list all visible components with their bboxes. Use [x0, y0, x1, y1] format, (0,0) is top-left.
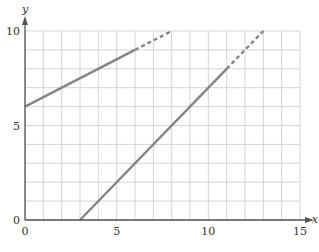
y-tick-label: 10 [6, 25, 20, 38]
x-tick-label: 0 [22, 225, 29, 238]
tick-labels: 0510150510xy [6, 3, 319, 238]
axes [22, 16, 314, 223]
x-tick-label: 10 [201, 225, 215, 238]
y-tick-label: 5 [13, 120, 20, 133]
line-chart: 0510150510xy [0, 0, 319, 252]
x-tick-label: 15 [293, 225, 307, 238]
grid [25, 31, 300, 220]
plot-area: 0510150510xy [0, 0, 319, 252]
x-tick-label: 5 [113, 225, 120, 238]
y-axis-label: y [21, 3, 29, 16]
x-axis-label: x [312, 213, 319, 226]
y-axis-arrow-icon [22, 16, 28, 25]
y-tick-label: 0 [13, 214, 20, 227]
